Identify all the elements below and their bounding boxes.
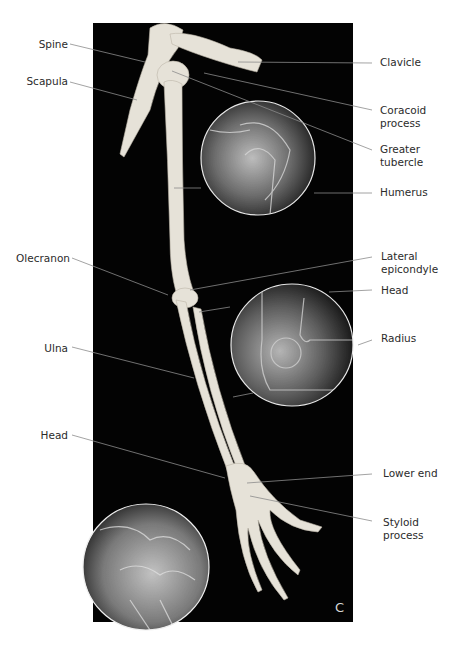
label-ulna-head: Head	[10, 429, 68, 442]
label-scapula: Scapula	[10, 75, 68, 88]
label-ulna: Ulna	[10, 342, 68, 355]
label-greater-tubercle: Greater tubercle	[380, 143, 423, 169]
elbow-xray-inset	[231, 284, 360, 406]
wrist-xray-inset	[83, 504, 209, 630]
ulna-bone	[176, 300, 236, 472]
humerus-bone	[164, 80, 193, 292]
panel-letter: C	[335, 600, 344, 615]
label-lower-end: Lower end	[383, 467, 438, 480]
hand-bones	[226, 463, 322, 600]
label-radius-head: Head	[381, 284, 408, 297]
label-humerus: Humerus	[380, 186, 428, 199]
label-radius: Radius	[381, 332, 416, 345]
label-spine: Spine	[18, 38, 68, 51]
arm-skeleton-figure: Spine Scapula Olecranon Ulna Head Clavic…	[0, 0, 450, 667]
label-olecranon: Olecranon	[0, 252, 70, 265]
label-lateral-epicondyle: Lateral epicondyle	[381, 250, 438, 276]
label-coracoid-process: Coracoid process	[380, 104, 426, 130]
label-clavicle: Clavicle	[380, 56, 421, 69]
shoulder-xray-inset	[201, 101, 315, 215]
label-styloid-process: Styloid process	[383, 516, 423, 542]
